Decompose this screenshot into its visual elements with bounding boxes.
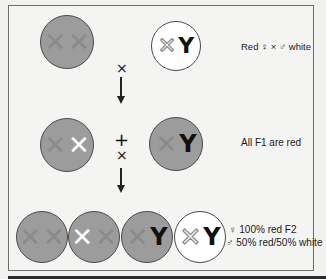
x-chromosome-white-icon: ✕ [158,35,176,57]
x-chromosome-red-icon: ✕ [43,224,65,250]
cross-symbol: × [116,60,128,76]
parent-female-red-cell: ✕ ✕ [40,15,94,69]
f1-male-cell: ✕ Y [149,117,203,171]
arrow-head-icon [117,185,125,193]
y-chromosome-icon: Y [178,35,194,57]
f2-female-result: ♀ 100% red F2 [229,224,297,235]
x-chromosome-red-icon: ✕ [44,132,66,158]
male-symbol-icon: ♂ [226,237,234,248]
arrow-head-icon [117,96,125,104]
f2-female-red-homozygous-cell: ✕ ✕ [16,211,68,263]
x-chromosome-white-icon: ✕ [68,132,90,158]
f1-female-cell: ✕ ✕ [40,118,94,172]
x-chromosome-white-icon: ✕ [179,224,201,250]
cross-symbol: × [116,147,128,163]
f2-female-red-carrier-cell: ✕ ✕ [68,211,120,263]
f2-male-result: ♂ 50% red/50% white [226,237,322,248]
x-chromosome-red-icon: ✕ [95,224,117,250]
x-chromosome-red-icon: ✕ [155,131,177,157]
parents-cross-label: Red ♀ × ♂ white [241,41,311,52]
f2-male-red-cell: ✕ Y [121,211,173,263]
x-chromosome-red-icon: ✕ [19,224,41,250]
f2-male-label: 50% red/50% white [236,237,322,248]
arrow-down-icon [120,77,122,98]
y-chromosome-icon: Y [179,132,196,156]
parent-male-white-cell: ✕ Y [151,21,201,71]
female-symbol-icon: ♀ [229,224,237,235]
f1-label: All F1 are red [241,137,301,148]
x-chromosome-red-icon: ✕ [126,224,148,250]
y-chromosome-icon: Y [203,225,220,249]
x-chromosome-red-icon: ✕ [68,29,90,55]
x-chromosome-red-icon: ✕ [44,29,66,55]
x-chromosome-white-icon: ✕ [71,224,93,250]
f2-male-white-cell: ✕ Y [174,211,226,263]
f2-female-label: 100% red F2 [239,224,296,235]
y-chromosome-icon: Y [150,225,167,249]
